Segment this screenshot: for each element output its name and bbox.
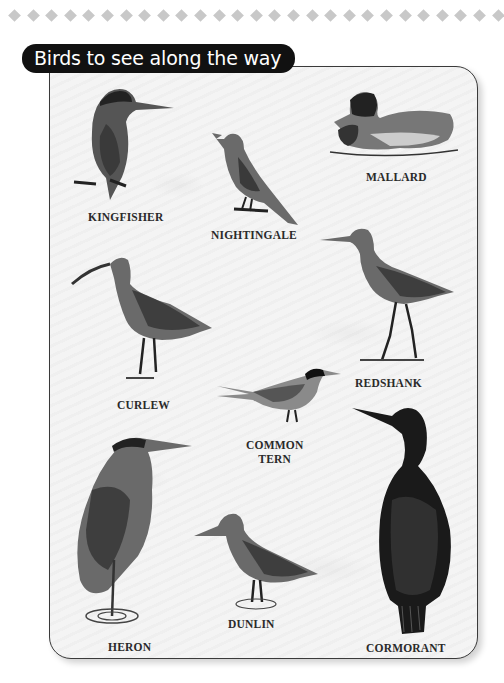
curlew-illustration [70,254,215,389]
redshank-illustration [320,226,460,366]
diamond-icon [101,9,114,22]
diamond-icon [306,9,319,22]
page-title: Birds to see along the way [22,44,295,73]
diamond-icon [213,9,226,22]
bird-label-common-tern: COMMON TERN [246,438,303,466]
bird-label-redshank: REDSHANK [355,376,422,390]
dunlin-illustration [192,500,322,610]
diamond-icon [417,9,430,22]
cormorant-illustration [352,400,462,635]
diamond-icon [324,9,337,22]
diamond-border-decoration [0,8,504,26]
diamond-icon [436,9,449,22]
diamond-icon [455,9,468,22]
diamond-icon [45,9,58,22]
diamond-icon [380,9,393,22]
diamond-icon [473,9,486,22]
diamond-icon [194,9,207,22]
bird-label-nightingale: NIGHTINGALE [211,228,297,242]
diamond-icon [27,9,40,22]
diamond-icon [176,9,189,22]
mallard-illustration [330,86,460,166]
diamond-icon [492,9,504,22]
diamond-icon [120,9,133,22]
diamond-icon [287,9,300,22]
bird-label-common: COMMON [246,439,303,451]
diamond-icon [138,9,151,22]
diamond-icon [362,9,375,22]
diamond-icon [8,9,21,22]
diamond-icon [343,9,356,22]
bird-label-curlew: CURLEW [117,398,170,412]
bird-label-dunlin: DUNLIN [228,617,275,631]
common-tern-illustration [213,362,343,432]
bird-label-heron: HERON [108,640,151,654]
diamond-icon [231,9,244,22]
diamond-icon [157,9,170,22]
heron-illustration [68,430,193,630]
diamond-icon [64,9,77,22]
bird-label-kingfisher: KINGFISHER [88,210,164,224]
diamond-icon [250,9,263,22]
kingfisher-illustration [66,82,176,207]
nightingale-illustration [208,127,303,227]
diamond-icon [399,9,412,22]
bird-label-cormorant: CORMORANT [366,641,446,655]
diamond-icon [83,9,96,22]
diamond-icon [269,9,282,22]
bird-label-tern: TERN [258,453,291,465]
bird-label-mallard: MALLARD [366,170,427,184]
